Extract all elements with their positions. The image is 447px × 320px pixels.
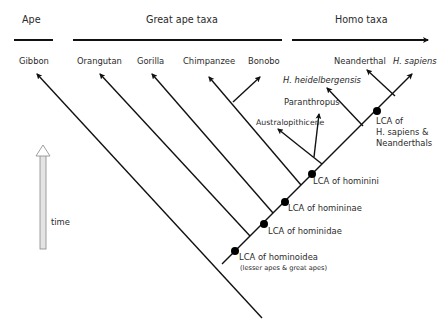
australopithicene-branch: [278, 129, 298, 145]
header-ape: Ape: [22, 14, 41, 25]
label-lca-hominoidea: LCA of hominoidea: [239, 253, 318, 263]
label-hominoidea-note: (lesser apes & great apes): [240, 265, 327, 273]
taxon-gibbon: Gibbon: [19, 57, 49, 67]
header-great-ape: Great ape taxa: [146, 14, 218, 25]
taxon-h-heidelbergensis: H. heidelbergensis: [283, 76, 361, 86]
label-lca-sapiens-neanderthal-2: H. sapiens &: [376, 128, 429, 138]
label-lca-sapiens-neanderthal-3: Neanderthals: [376, 139, 432, 149]
header-homo: Homo taxa: [335, 14, 388, 25]
taxon-h-sapiens: H. sapiens: [393, 57, 437, 67]
taxon-chimpanzee: Chimpanzee: [183, 57, 235, 67]
taxon-orangutan: Orangutan: [77, 57, 122, 67]
neanderthal-branch: [367, 70, 395, 96]
gibbon-branch: [37, 74, 262, 318]
label-lca-homininae: LCA of homininae: [288, 204, 362, 214]
node-sapiens-neanderthal: [373, 107, 381, 115]
taxon-paranthropus: Paranthropus: [284, 98, 340, 108]
time-arrow-icon: [36, 145, 50, 249]
taxon-australopithicene: Australopithicene: [256, 119, 324, 128]
label-lca-sapiens-neanderthal-1: LCA of: [376, 117, 403, 127]
australopith-stem: [298, 145, 322, 164]
bonobo-branch: [233, 77, 260, 102]
time-label: time: [51, 218, 70, 228]
chimp-bonobo-branch: [209, 77, 301, 185]
taxon-gorilla: Gorilla: [137, 57, 164, 67]
phylogeny-tree: [0, 0, 447, 320]
node-hominidae: [260, 220, 268, 228]
taxon-neanderthal: Neanderthal: [334, 57, 386, 67]
taxon-bonobo: Bonobo: [248, 57, 280, 67]
label-lca-hominidae: LCA of hominidae: [268, 227, 342, 237]
label-lca-hominini: LCA of hominini: [313, 177, 379, 187]
node-hominoidea: [231, 247, 239, 255]
gorilla-branch: [152, 74, 273, 213]
